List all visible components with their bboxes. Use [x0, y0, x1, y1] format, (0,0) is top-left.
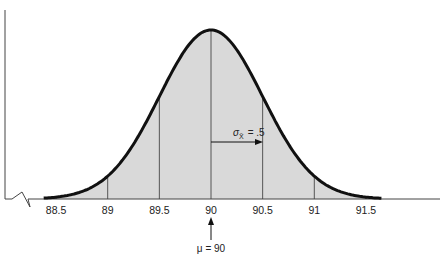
tick-vertical-lines: [56, 30, 366, 199]
x-tick-label: 91.5: [356, 204, 377, 216]
x-tick-label: 89: [102, 204, 114, 216]
x-tick-label: 89.5: [149, 204, 170, 216]
x-tick-labels: 88.58989.59090.59191.5: [46, 204, 376, 216]
curve-shaded-area: [44, 30, 382, 199]
mean-arrow-head: [208, 217, 214, 225]
normal-curve-chart: 88.58989.59090.59191.5 σX̄= .5 μ = 90: [0, 0, 443, 254]
mean-label: μ = 90: [197, 243, 226, 254]
x-tick-label: 91: [308, 204, 320, 216]
x-tick-label: 90.5: [252, 204, 273, 216]
x-tick-label: 90: [205, 204, 217, 216]
x-tick-label: 88.5: [46, 204, 67, 216]
